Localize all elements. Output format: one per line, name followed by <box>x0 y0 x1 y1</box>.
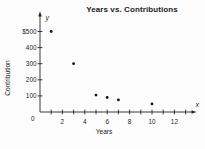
data-points <box>50 30 154 105</box>
x-axis-title: Years <box>96 128 113 135</box>
data-point <box>95 94 98 97</box>
data-point <box>50 30 53 33</box>
x-tick-label: 12 <box>171 118 179 125</box>
y-tick-label: 400 <box>26 44 37 51</box>
scatter-chart-figure: Years vs. Contributions Contribution Yea… <box>0 0 205 149</box>
y-axis-title: Contribution <box>4 60 11 96</box>
x-axis-symbol-label: x <box>195 101 200 108</box>
scatter-plot: Years vs. Contributions Contribution Yea… <box>0 0 205 149</box>
data-point <box>151 103 154 106</box>
chart-title: Years vs. Contributions <box>86 5 178 14</box>
y-tick-label: 100 <box>26 92 37 99</box>
data-point <box>106 96 109 99</box>
x-tick-label: 4 <box>83 118 87 125</box>
x-axis-arrow <box>192 110 197 114</box>
origin-label: 0 <box>31 115 35 122</box>
data-point <box>72 62 75 65</box>
x-tick-label: 2 <box>61 118 65 125</box>
y-axis-ticks: 100200300400$500 <box>22 28 42 99</box>
x-tick-label: 6 <box>105 118 109 125</box>
y-tick-label: $500 <box>22 28 37 35</box>
y-axis-arrow <box>38 12 42 17</box>
y-tick-label: 300 <box>26 60 37 67</box>
axes <box>38 12 196 114</box>
data-point <box>117 99 120 102</box>
x-tick-label: 8 <box>128 118 132 125</box>
y-tick-label: 200 <box>26 76 37 83</box>
x-tick-label: 10 <box>148 118 156 125</box>
y-axis-symbol-label: y <box>45 14 50 22</box>
